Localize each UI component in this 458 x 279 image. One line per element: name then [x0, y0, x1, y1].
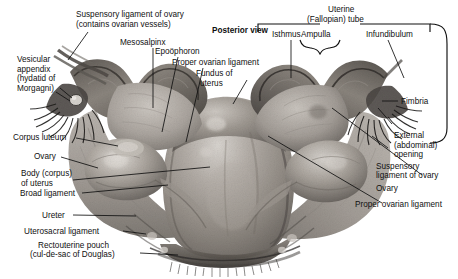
label-external-opening-line2: (abdominal) [394, 141, 437, 150]
label-fimbria: Fimbria [401, 97, 428, 106]
label-body-of-uterus-line2: of uterus [21, 179, 53, 188]
label-mesosalpinx: Mesosalpinx [120, 38, 166, 47]
label-rectouterine-pouch-line1: Rectouterine pouch [38, 241, 109, 250]
label-suspensory-ligament-right-line1: Suspensory [376, 162, 419, 171]
label-proper-ovarian-ligament-left: Proper ovarian ligament [172, 58, 259, 67]
label-broad-ligament: Broad ligament [20, 189, 75, 198]
label-suspensory-ligament-right-line2: ligament of ovary [376, 171, 438, 180]
label-external-opening-line3: opening [394, 150, 423, 159]
label-fundus-of-uterus-line2: uterus [200, 79, 223, 88]
label-suspensory-ligament-of-ovary-line2: (contains ovarian vessels) [76, 20, 171, 29]
label-body-of-uterus-line1: Body (corpus) [21, 169, 72, 178]
label-uterine-tube-line2: (Fallopian) tube [307, 15, 364, 24]
label-external-opening-line1: External [394, 131, 424, 140]
label-epoophoron: Epoöphoron [155, 47, 200, 56]
label-ovary-right: Ovary [376, 184, 398, 193]
specimen-photo-svg [0, 0, 458, 279]
label-isthmus: Isthmus [272, 30, 301, 39]
label-ureter: Ureter [42, 211, 65, 220]
label-rectouterine-pouch-line2: (cul-de-sac of Douglas) [30, 250, 115, 259]
label-fundus-of-uterus-line1: Fundus of [196, 69, 232, 78]
label-proper-ovarian-ligament-right: Proper ovarian ligament [355, 200, 442, 209]
label-suspensory-ligament-of-ovary-line1: Suspensory ligament of ovary [76, 10, 184, 19]
label-vesicular-appendix-line4: Morgagni) [17, 84, 54, 93]
label-vesicular-appendix-line2: appendix [17, 65, 50, 74]
anatomical-figure: Posterior view Suspensory ligament of ov… [0, 0, 458, 279]
label-uterine-tube-line1: Uterine [328, 5, 354, 14]
label-ovary-left: Ovary [34, 152, 56, 161]
label-vesicular-appendix-line1: Vesicular [17, 55, 50, 64]
label-uterosacral-ligament: Uterosacral ligament [24, 227, 99, 236]
label-vesicular-appendix-line3: (hydatid of [17, 74, 55, 83]
label-ampulla: Ampulla [301, 30, 331, 39]
label-infundibulum: Infundibulum [366, 30, 413, 39]
figure-title: Posterior view [212, 26, 268, 35]
label-corpus-luteum: Corpus luteum [13, 133, 66, 142]
specimen-photograph [0, 0, 458, 279]
